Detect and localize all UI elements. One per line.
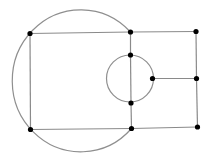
node-J bbox=[195, 124, 200, 129]
edge-I-J bbox=[132, 127, 198, 129]
nodes bbox=[27, 29, 200, 132]
node-I bbox=[129, 126, 134, 131]
node-A bbox=[27, 31, 32, 36]
graph-diagram bbox=[0, 0, 209, 159]
node-H bbox=[28, 127, 33, 132]
node-E bbox=[150, 76, 155, 81]
edge-C-F bbox=[196, 32, 197, 79]
edges bbox=[30, 32, 198, 130]
node-G bbox=[128, 100, 133, 105]
edge-A-B bbox=[30, 32, 131, 34]
edge-G-I bbox=[131, 103, 132, 129]
edge-H-I bbox=[31, 129, 132, 130]
edge-B-C bbox=[131, 32, 197, 33]
edge-A-H bbox=[30, 34, 31, 130]
node-F bbox=[194, 76, 199, 81]
node-C bbox=[193, 29, 198, 34]
node-B bbox=[128, 29, 133, 34]
edge-F-J bbox=[197, 79, 198, 128]
edge-D-G bbox=[131, 55, 132, 103]
node-D bbox=[128, 52, 133, 57]
